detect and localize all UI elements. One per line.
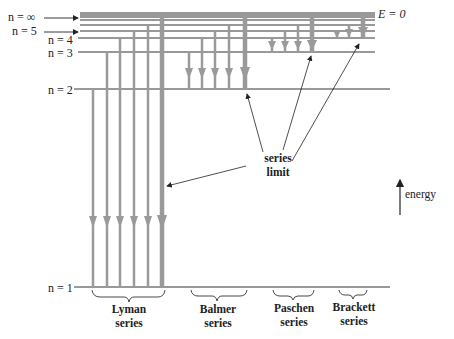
level-label-1: n = 1: [48, 282, 73, 294]
paschen-arrowheads: [268, 40, 317, 51]
level-label-4: n = 4: [48, 34, 73, 46]
energy-axis-label: energy: [405, 189, 436, 201]
level-label-3: n = 3: [48, 47, 73, 59]
paschen-series-label: Paschenseries: [264, 301, 324, 329]
brackett-arrowheads: [334, 27, 368, 38]
lyman-arrows: [93, 13, 162, 287]
brackett-series-label: Brackettseries: [326, 300, 382, 328]
lyman-series-label: Lymanseries: [98, 302, 160, 330]
level-label-5: n = 5: [12, 25, 37, 37]
energy-level-diagram: n = ∞ n = 5 n = 4 n = 3 n = 2 n = 1 E = …: [0, 0, 454, 339]
lyman-arrowheads: [89, 215, 167, 230]
series-limit-label: series limit: [248, 151, 308, 179]
balmer-arrowheads: [185, 67, 250, 81]
balmer-series-label: Balmerseries: [188, 302, 248, 330]
zero-energy-label: E = 0: [378, 8, 405, 20]
level-label-2: n = 2: [48, 84, 73, 96]
level-label-infinity: n = ∞: [8, 11, 35, 23]
paschen-arrows: [272, 13, 312, 52]
balmer-arrows: [189, 13, 245, 89]
energy-levels: [80, 13, 390, 287]
